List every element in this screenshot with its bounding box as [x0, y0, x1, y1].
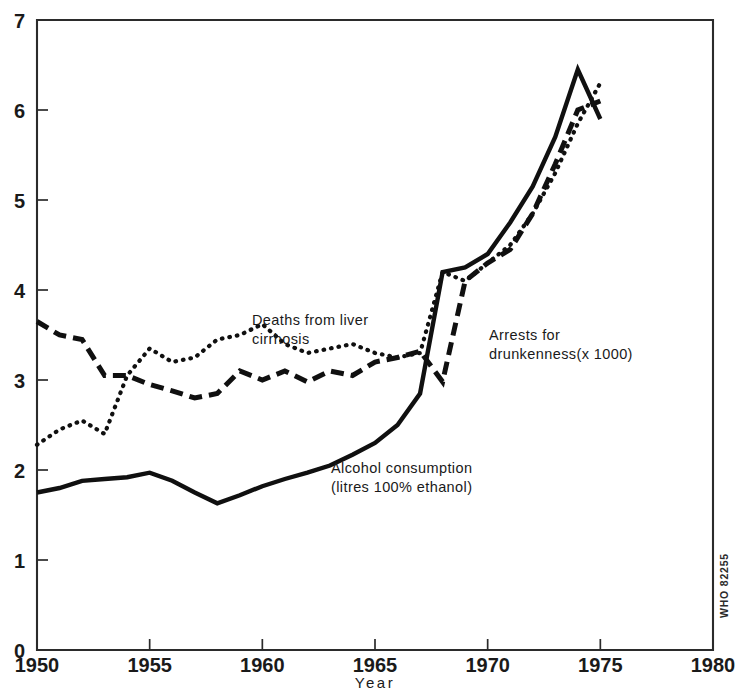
y-axis-tick-labels: 01234567 [14, 10, 26, 662]
y-axis-tick-label: 4 [14, 280, 26, 302]
x-axis-tick-label: 1970 [465, 654, 510, 676]
x-axis-tick-label: 1980 [691, 654, 736, 676]
x-axis-tick-labels: 1950195519601965197019751980 [15, 654, 736, 676]
line-chart-svg: 01234567 1950195519601965197019751980 De… [0, 0, 743, 694]
annotation-arrests-line2: drunkenness(x 1000) [489, 346, 633, 362]
plot-frame [37, 20, 713, 650]
annotation-cirrhosis-line1: Deaths from liver [252, 312, 368, 328]
chart-figure: 01234567 1950195519601965197019751980 De… [0, 0, 743, 694]
x-axis-ticks [37, 639, 713, 650]
annotation-cirrhosis-line2: cirrhosis [252, 331, 310, 347]
x-axis-tick-label: 1965 [353, 654, 398, 676]
y-axis-tick-label: 6 [14, 100, 25, 122]
x-axis-tick-label: 1975 [578, 654, 623, 676]
y-axis-tick-label: 1 [14, 550, 25, 572]
x-axis-tick-label: 1960 [240, 654, 285, 676]
series-alcohol-consumption-line [37, 70, 600, 504]
annotation-alcohol-line1: Alcohol consumption [331, 460, 472, 476]
y-axis-tick-label: 2 [14, 460, 25, 482]
y-axis-tick-label: 3 [14, 370, 25, 392]
annotation-alcohol-line2: (litres 100% ethanol) [331, 479, 472, 495]
annotation-arrests-line1: Arrests for [489, 327, 560, 343]
x-axis-title: Year [355, 674, 395, 691]
y-axis-tick-label: 7 [14, 10, 25, 32]
series-liver-cirrhosis-line [37, 83, 600, 445]
x-axis-tick-label: 1950 [15, 654, 60, 676]
source-credit-label: WHO 82255 [718, 553, 730, 618]
x-axis-tick-label: 1955 [127, 654, 172, 676]
y-axis-tick-label: 5 [14, 190, 25, 212]
